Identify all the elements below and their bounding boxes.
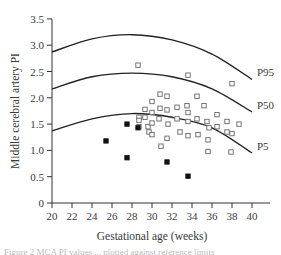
open-square-point <box>143 115 147 119</box>
open-square-point <box>178 130 182 134</box>
open-square-point <box>175 117 179 121</box>
y-tick-label: 3.0 <box>30 39 44 51</box>
filled-square-point <box>125 122 129 126</box>
open-square-point <box>215 112 219 116</box>
open-square-point <box>186 110 190 114</box>
y-tick-label: 1.0 <box>30 144 44 156</box>
x-tick-label: 26 <box>107 210 119 222</box>
open-square-point <box>165 94 169 98</box>
open-square-point <box>166 122 170 126</box>
filled-square-point <box>104 139 108 143</box>
open-square-point <box>186 133 190 137</box>
filled-square-point <box>125 156 129 160</box>
open-square-point <box>215 125 219 129</box>
chart: 00.51.01.52.02.53.03.5 20222426283032343… <box>0 0 281 255</box>
filled-square-point <box>186 174 190 178</box>
x-tick-label: 32 <box>167 210 178 222</box>
open-square-point <box>150 132 154 136</box>
open-square-point <box>207 126 211 130</box>
data-points <box>104 63 241 178</box>
open-square-point <box>175 105 179 109</box>
open-square-point <box>158 106 162 110</box>
y-axis: 00.51.01.52.02.53.03.5 <box>30 13 52 209</box>
curve-p95 <box>52 35 252 80</box>
y-tick-label: 2.0 <box>30 92 44 104</box>
x-tick-label: 30 <box>147 210 159 222</box>
reference-curves: P95P50P5 <box>52 35 275 153</box>
open-square-point <box>206 138 210 142</box>
open-square-point <box>230 81 234 85</box>
open-square-point <box>225 119 229 123</box>
open-square-point <box>185 103 189 107</box>
open-square-point <box>186 119 190 123</box>
open-square-point <box>159 144 163 148</box>
open-square-point <box>165 108 169 112</box>
curve-label-p95: P95 <box>257 66 275 78</box>
x-tick-label: 38 <box>227 210 239 222</box>
open-square-point <box>158 92 162 96</box>
x-tick-label: 22 <box>67 210 78 222</box>
x-tick-label: 40 <box>247 210 259 222</box>
curve-p50 <box>52 73 252 112</box>
open-square-point <box>196 132 200 136</box>
curve-label-p5: P5 <box>257 140 269 152</box>
y-axis-title: Middle cerebral artery PI <box>9 53 22 169</box>
y-tick-label: 2.5 <box>30 66 44 78</box>
open-square-point <box>205 119 209 123</box>
open-square-point <box>165 136 169 140</box>
filled-square-point <box>136 126 140 130</box>
open-square-point <box>186 73 190 77</box>
open-square-point <box>225 130 229 134</box>
open-square-point <box>230 131 234 135</box>
open-square-point <box>136 63 140 67</box>
x-tick-label: 28 <box>127 210 139 222</box>
open-square-point <box>137 118 141 122</box>
x-axis: 2022242628303234363840 <box>47 203 271 222</box>
x-tick-label: 34 <box>187 210 199 222</box>
y-tick-label: 0 <box>39 197 45 209</box>
open-square-point <box>195 117 199 121</box>
open-square-point <box>150 121 154 125</box>
open-square-point <box>195 94 199 98</box>
x-tick-label: 24 <box>87 210 99 222</box>
x-tick-label: 36 <box>207 210 219 222</box>
y-tick-label: 3.5 <box>30 13 44 25</box>
figure-caption: Figure 2 MCA PI values ... plotted again… <box>4 247 279 255</box>
open-square-point <box>229 150 233 154</box>
open-square-point <box>150 99 154 103</box>
y-tick-label: 1.5 <box>30 118 44 130</box>
open-square-point <box>157 117 161 121</box>
x-tick-label: 20 <box>47 210 59 222</box>
filled-square-point <box>165 160 169 164</box>
open-square-point <box>143 107 147 111</box>
x-axis-title: Gestational age (weeks) <box>97 230 208 243</box>
y-tick-label: 0.5 <box>30 171 44 183</box>
open-square-point <box>202 103 206 107</box>
open-square-point <box>150 110 154 114</box>
open-square-point <box>206 149 210 153</box>
curve-label-p50: P50 <box>257 99 275 111</box>
open-square-point <box>237 122 241 126</box>
